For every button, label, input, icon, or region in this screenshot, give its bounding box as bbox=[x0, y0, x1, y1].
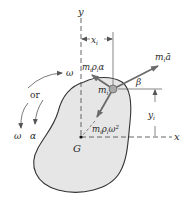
cw-alpha-label: α bbox=[30, 131, 36, 141]
angle-beta-label: β bbox=[135, 77, 141, 87]
rigid-body bbox=[34, 78, 131, 193]
center-of-mass-label: G bbox=[73, 143, 81, 154]
normal-force-label: miρiω2 bbox=[92, 124, 120, 135]
y-i-label: yi bbox=[147, 110, 155, 121]
tangential-force-label: miρiα bbox=[82, 62, 105, 73]
cw-omega-arrow bbox=[21, 103, 28, 128]
particle-mi bbox=[109, 85, 117, 93]
kinetics-diagram: y x G xi yi mi miā miρiα miρiω2 β ω or ω… bbox=[0, 0, 189, 205]
ccw-omega-label: ω bbox=[66, 68, 74, 78]
y-axis-label: y bbox=[77, 6, 84, 17]
ccw-omega-arrow bbox=[28, 73, 62, 88]
or-label: or bbox=[30, 90, 40, 100]
cw-omega-label: ω bbox=[14, 131, 22, 141]
center-of-mass-point bbox=[79, 135, 82, 138]
cw-alpha-arrow bbox=[35, 100, 43, 124]
resultant-force-label: miā bbox=[155, 52, 171, 63]
x-i-label: xi bbox=[91, 35, 98, 46]
x-axis-label: x bbox=[174, 131, 180, 142]
